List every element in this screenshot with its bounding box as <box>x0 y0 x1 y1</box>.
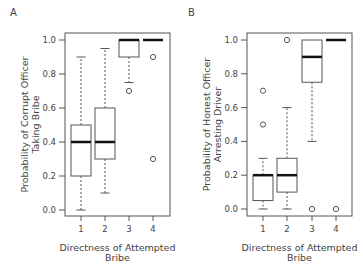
x-tick-label: 1 <box>78 224 83 234</box>
x-tick-label: 4 <box>333 224 338 234</box>
y-axis-label: Arresting Driver <box>212 87 223 162</box>
y-tick-label: 0.4 <box>224 136 238 146</box>
panel-letter: A <box>10 7 17 18</box>
box-3 <box>302 40 322 212</box>
outlier-point <box>309 206 314 211</box>
y-tick-label: 0.2 <box>42 171 56 181</box>
y-tick-label: 0.2 <box>224 170 238 180</box>
y-tick-label: 1.0 <box>42 35 56 45</box>
y-axis-label: Taking Bribe <box>30 95 41 154</box>
x-axis-label: Bribe <box>287 252 312 263</box>
box-2 <box>95 49 115 194</box>
box-2 <box>277 37 297 209</box>
y-tick-label: 0.0 <box>224 204 238 214</box>
y-tick-label: 0.6 <box>42 103 56 113</box>
panel-a: A0.00.20.40.60.81.01234Directness of Att… <box>10 7 175 263</box>
panel-letter: B <box>188 7 195 18</box>
outlier-point <box>150 156 155 161</box>
y-tick-label: 0.8 <box>224 69 238 79</box>
y-tick-label: 0.4 <box>42 137 56 147</box>
y-tick-label: 0.6 <box>224 103 238 113</box>
box-4 <box>143 40 163 162</box>
y-axis-label: Probability of Corrupt Officer <box>19 56 30 192</box>
y-tick-label: 0.8 <box>42 69 56 79</box>
outlier-point <box>284 37 289 42</box>
box-1 <box>71 57 91 210</box>
box-3 <box>119 40 139 94</box>
box-1 <box>253 88 273 209</box>
y-tick-label: 1.0 <box>224 35 238 45</box>
y-axis-label: Probability of Honest Officer <box>201 58 212 192</box>
panel-b: B0.00.20.40.60.81.01234Directness of Att… <box>188 7 357 263</box>
y-tick-label: 0.0 <box>42 205 56 215</box>
outlier-point <box>150 54 155 59</box>
x-axis-label: Bribe <box>105 252 130 263</box>
outlier-point <box>333 206 338 211</box>
x-tick-label: 1 <box>260 224 265 234</box>
outlier-point <box>260 88 265 93</box>
x-tick-label: 3 <box>126 224 131 234</box>
x-tick-label: 2 <box>102 224 107 234</box>
x-tick-label: 2 <box>284 224 289 234</box>
boxplot-figure: A0.00.20.40.60.81.01234Directness of Att… <box>0 0 363 272</box>
x-tick-label: 4 <box>150 224 155 234</box>
box-4 <box>326 40 346 212</box>
outlier-point <box>126 88 131 93</box>
x-tick-label: 3 <box>309 224 314 234</box>
outlier-point <box>260 122 265 127</box>
